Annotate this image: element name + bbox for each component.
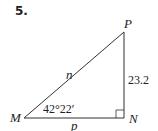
vertex-n-label: N [128, 111, 139, 126]
vertex-p-label: P [123, 16, 132, 31]
problem-number: 5. [15, 4, 28, 18]
triangle-diagram: 5. P M N n p 23.2 42°22′ [0, 0, 158, 131]
vertex-m-label: M [9, 110, 22, 125]
side-n-label: n [66, 67, 73, 82]
side-vertical-label: 23.2 [128, 73, 149, 87]
angle-m-label: 42°22′ [43, 102, 75, 116]
right-angle-marker [116, 110, 124, 118]
side-p-label: p [70, 118, 78, 131]
